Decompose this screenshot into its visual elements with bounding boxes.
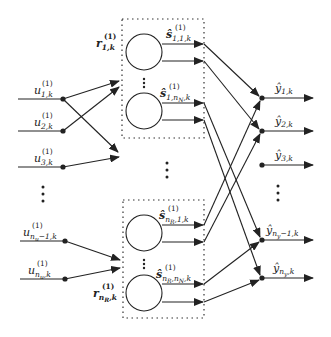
output-nodes [259,95,264,280]
diagram-canvas: u1,k(1) u2,k(1) u3,k(1) unu−1,k(1) unu,k… [0,0,331,337]
label-y1: ŷ1,k [274,82,293,96]
label-y3: ŷ3,k [274,149,293,163]
submodel-output-labels: ŝ1,1,k(1) ŝ1,nN,k(1) ŝnR,1,k(1) ŝnR,nN,k… [156,23,192,284]
label-yny: ŷny,k [272,262,295,278]
network-diagram: u1,k(1) u2,k(1) u3,k(1) unu−1,k(1) unu,k… [0,0,331,337]
label-u1: u1,k(1) [34,79,53,99]
network-node-nR-1 [126,215,162,251]
label-u2: u2,k(1) [34,111,53,131]
network-node-1-nN [126,93,162,129]
label-unu: unu,k(1) [28,259,51,280]
network-node-1-1 [126,34,162,70]
input-labels: u1,k(1) u2,k(1) u3,k(1) unu−1,k(1) unu,k… [23,79,57,280]
regressor-labels: r1,k(1) rnR,k(1) [93,32,117,303]
label-u3: u3,k(1) [34,147,53,167]
label-s11: ŝ1,1,k(1) [166,23,192,43]
output-connections [204,44,313,302]
label-snRnN: ŝnR,nN,k(1) [156,263,191,284]
label-unu-1: unu−1,k(1) [23,221,57,242]
label-rnR: rnR,k(1) [93,282,117,303]
input-lines [18,81,120,279]
label-snR1: ŝnR,1,k(1) [159,204,189,225]
label-yny-1: ŷny−1,k [265,224,299,240]
label-y2: ŷ2,k [274,115,293,129]
input-nodes [60,96,67,281]
label-r1: r1,k(1) [96,32,116,52]
label-s1nN: ŝ1,nN,k(1) [160,82,191,103]
output-labels: ŷ1,k ŷ2,k ŷ3,k ŷny−1,k ŷny,k [265,82,299,278]
